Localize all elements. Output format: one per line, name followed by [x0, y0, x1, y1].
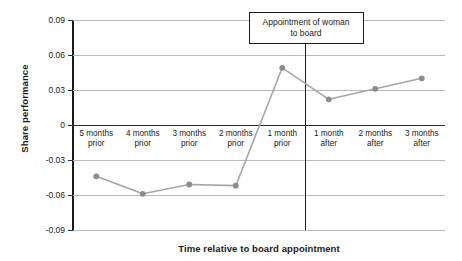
y-tick-label: 0.03	[21, 86, 65, 95]
data-point	[419, 75, 425, 81]
appointment-annotation-box: Appointment of woman to board	[249, 12, 364, 44]
share-performance-chart: Share performance 0.090.060.030-0.03-0.0…	[0, 0, 462, 261]
data-point	[372, 86, 378, 92]
y-tick-label: 0.09	[21, 16, 65, 25]
y-tick-label: -0.06	[21, 191, 65, 200]
data-point	[279, 65, 285, 71]
y-tick-label: -0.03	[21, 156, 65, 165]
x-axis-title: Time relative to board appointment	[73, 243, 445, 254]
y-tick-label: -0.09	[21, 226, 65, 235]
data-point	[233, 183, 239, 189]
data-point	[326, 96, 332, 102]
data-point	[93, 173, 99, 179]
data-point	[140, 191, 146, 197]
plot-area: 0.090.060.030-0.03-0.06-0.09 5 months pr…	[73, 20, 445, 230]
series-line	[73, 20, 445, 230]
y-tick-label: 0	[21, 121, 65, 130]
data-point	[186, 182, 192, 188]
y-tick-label: 0.06	[21, 51, 65, 60]
